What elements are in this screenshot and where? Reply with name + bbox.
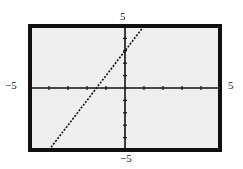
graph-window	[0, 0, 243, 169]
